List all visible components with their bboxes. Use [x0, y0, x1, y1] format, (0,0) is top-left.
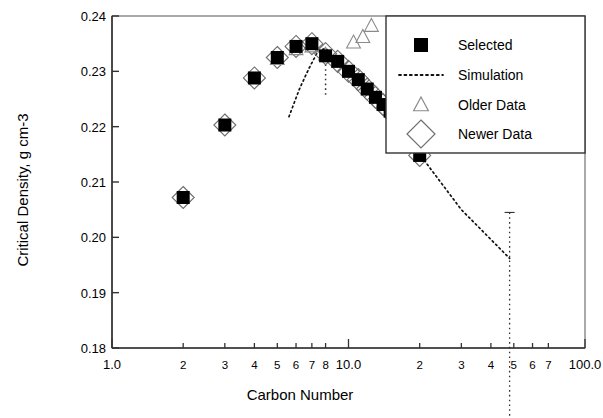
legend-marker-filled-square: [414, 38, 428, 52]
x-tick-label: 6: [529, 359, 535, 371]
x-axis-label: Carbon Number: [247, 386, 354, 403]
data-point-square: [271, 51, 284, 64]
data-point-square: [319, 49, 332, 62]
data-point-square: [177, 191, 190, 204]
y-tick-label: 0.18: [81, 341, 106, 356]
x-tick-label: 4: [488, 359, 495, 371]
chart-figure: 0.180.190.200.210.220.230.24 1.023456781…: [0, 0, 603, 418]
data-point-square: [218, 119, 231, 132]
data-point-square: [248, 71, 261, 84]
y-axis-label: Critical Density, g cm-3: [14, 113, 31, 266]
y-tick-label: 0.19: [81, 286, 106, 301]
legend-label: Selected: [458, 37, 512, 53]
x-tick-label: 7: [545, 359, 551, 371]
data-point-square: [290, 40, 303, 53]
legend-label: Older Data: [458, 97, 526, 113]
x-tick-label: 3: [222, 359, 228, 371]
y-tick-label: 0.21: [81, 175, 106, 190]
data-point-square: [305, 37, 318, 50]
x-tick-label: 7: [309, 359, 315, 371]
x-tick-label: 5: [511, 359, 517, 371]
x-tick-label: 100.0: [569, 357, 602, 372]
critical-density-vs-carbon-number-chart: 0.180.190.200.210.220.230.24 1.023456781…: [0, 0, 603, 418]
x-tick-label: 8: [322, 359, 328, 371]
y-tick-label: 0.22: [81, 120, 106, 135]
x-tick-label: 1.0: [103, 357, 121, 372]
x-tick-label: 10.0: [336, 357, 361, 372]
x-tick-label: 6: [293, 359, 299, 371]
legend-label: Simulation: [458, 67, 523, 83]
x-tick-label: 3: [458, 359, 464, 371]
y-tick-label: 0.23: [81, 64, 106, 79]
x-tick-label: 5: [274, 359, 280, 371]
legend-label: Newer Data: [458, 126, 532, 142]
y-tick-label: 0.24: [81, 9, 106, 24]
x-tick-label: 4: [251, 359, 258, 371]
y-tick-label: 0.20: [81, 230, 106, 245]
x-tick-label: 2: [180, 359, 186, 371]
x-tick-label: 2: [416, 359, 422, 371]
